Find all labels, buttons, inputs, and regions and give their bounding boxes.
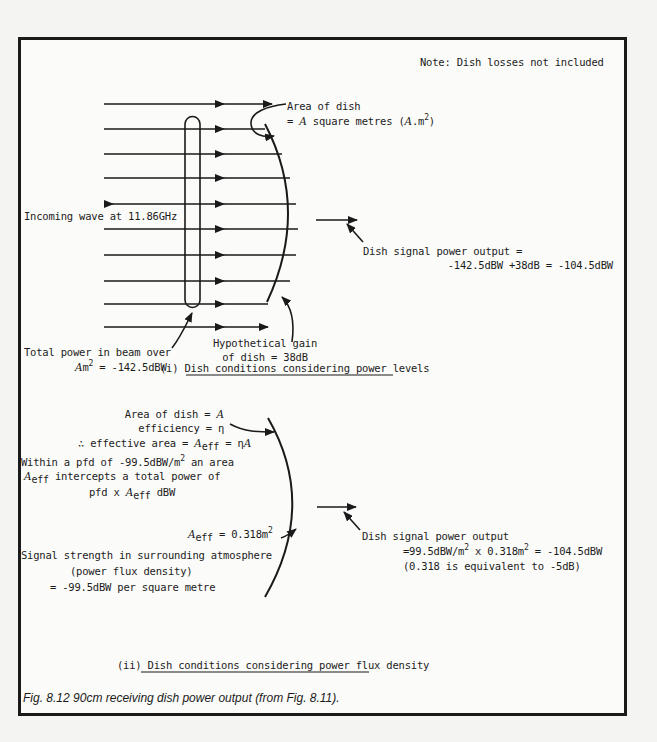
figure-caption: Fig. 8.12 90cm receiving dish power outp… [23, 691, 340, 705]
output-label-i-line1: Dish signal power output = [363, 245, 522, 258]
dish-arc-lower [265, 418, 292, 597]
total-power-line1: Total power in beam over [24, 346, 171, 359]
note-text: Note: Dish losses not included [420, 56, 604, 69]
effective-area-label: ∴ effective area = Aeff = ηA [78, 437, 251, 450]
signal-strength-line1: Signal strength in surrounding atmospher… [21, 549, 272, 562]
efficiency-label: efficiency = η [138, 422, 224, 435]
beam-area-outline [185, 117, 200, 308]
area-of-dish-label: Area of dish [287, 100, 360, 113]
pfd-line3: pfd x Aeff dBW [89, 486, 175, 499]
output-label-ii-line3: (0.318 is equivalent to -5dB) [403, 560, 581, 573]
pfd-line1: Within a pfd of -99.5dBW/m2 an area [21, 456, 234, 469]
dish-arc-upper [265, 124, 288, 302]
section-title-i: (i) Dish conditions considering power le… [160, 362, 429, 375]
output-label-ii-line2: =99.5dBW/m2 x 0.318m2 = -104.5dBW [403, 545, 602, 558]
pfd-line2: Aeff intercepts a total power of [24, 470, 220, 483]
aeff-value-label: Aeff = 0.318m2 [188, 528, 273, 541]
area-of-dish-value: = A square metres (A.m2) [287, 115, 435, 128]
signal-strength-line3: = -99.5dBW per square metre [50, 581, 215, 594]
area-of-dish-ii: Area of dish = A [125, 408, 224, 421]
total-power-line2: Am2 = -142.5dBW [75, 361, 167, 374]
output-label-ii-line1: Dish signal power output [362, 530, 509, 543]
signal-strength-line2: (power flux density) [70, 565, 192, 578]
output-label-i-line2: -142.5dBW +38dB = -104.5dBW [448, 259, 613, 272]
section-title-ii: (ii) Dish conditions considering power f… [117, 659, 429, 672]
incoming-wave-label: Incoming wave at 11.86GHz [24, 210, 177, 223]
gain-line1: Hypothetical gain [205, 337, 325, 350]
